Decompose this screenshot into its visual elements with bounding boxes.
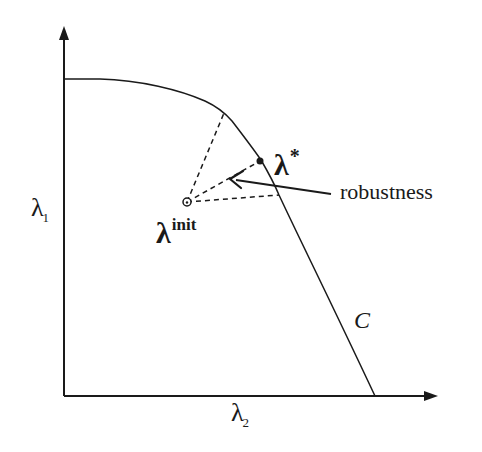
lambda-init-superscript: init <box>172 215 197 234</box>
x-axis-label-subscript: 2 <box>243 415 250 430</box>
x-axis-label-symbol: λ <box>231 398 244 427</box>
lambda-star-symbol: λ <box>274 148 289 181</box>
dashed-line-lower <box>187 195 279 202</box>
x-axis-arrow-icon <box>424 391 438 401</box>
y-axis-label-subscript: 1 <box>43 210 50 225</box>
lambda-star-label: λ* <box>274 150 299 180</box>
robustness-arrow <box>236 180 331 194</box>
robustness-label: robustness <box>340 181 433 203</box>
curve-label: C <box>354 308 370 332</box>
diagram-svg <box>0 0 482 452</box>
curve-c <box>64 79 375 396</box>
lambda-init-marker-center <box>186 201 188 203</box>
lambda-star-marker <box>257 158 264 165</box>
diagram-canvas: λ1 λ2 λinit λ* robustness C <box>0 0 482 452</box>
x-axis-label: λ2 <box>231 400 250 426</box>
dashed-line-upper <box>187 113 224 202</box>
y-axis-label: λ1 <box>31 195 50 221</box>
lambda-init-symbol: λ <box>156 216 171 249</box>
lambda-star-superscript: * <box>290 145 300 167</box>
y-axis-arrow-icon <box>59 26 69 40</box>
lambda-init-label: λinit <box>156 218 195 248</box>
y-axis-label-symbol: λ <box>31 193 44 222</box>
